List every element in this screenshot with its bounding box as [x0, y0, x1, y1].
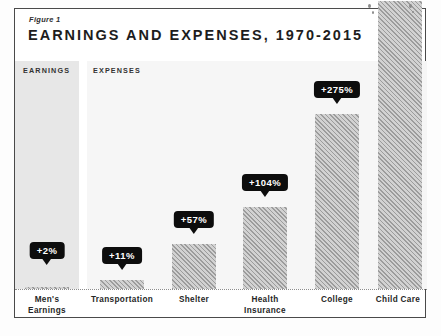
bar-group-college: +275% [304, 9, 370, 289]
category-label-line1: Child Care [368, 294, 428, 305]
category-label-line2: Insurance [230, 305, 300, 316]
category-label-line1: Transportation [87, 294, 157, 305]
bar-group-child-care [373, 9, 427, 289]
category-label-college: College [304, 294, 370, 305]
category-label-health-insurance: Health Insurance [230, 294, 300, 316]
bar-health-insurance [243, 207, 287, 289]
scan-speckle-icon [368, 4, 371, 8]
bar-group-mens-earnings: +2% [15, 9, 79, 289]
category-label-shelter: Shelter [161, 294, 227, 305]
category-label-line1: Men's [15, 294, 79, 305]
axis-baseline [15, 289, 427, 290]
bar-transportation [100, 280, 144, 289]
category-label-line1: Shelter [161, 294, 227, 305]
bar-callout-mens-earnings: +2% [30, 242, 65, 260]
bar-group-health-insurance: +104% [230, 9, 300, 289]
bar-child-care [378, 1, 422, 289]
category-label-mens-earnings: Men's Earnings [15, 294, 79, 316]
bar-group-shelter: +57% [161, 9, 227, 289]
figure-container: Figure 1 EARNINGS AND EXPENSES, 1970-201… [14, 8, 426, 318]
bar-college [315, 114, 359, 289]
category-label-child-care: Child Care [368, 294, 428, 305]
bar-callout-health-insurance: +104% [242, 174, 288, 192]
bar-shelter [172, 244, 216, 289]
category-label-line1: College [304, 294, 370, 305]
bar-group-transportation: +11% [87, 9, 157, 289]
plot-area: +2% +11% +57% +104% +275% [15, 9, 427, 289]
category-label-transportation: Transportation [87, 294, 157, 305]
category-label-line1: Health [230, 294, 300, 305]
scan-speckle-icon [409, 4, 412, 8]
category-label-line2: Earnings [15, 305, 79, 316]
bar-callout-transportation: +11% [102, 247, 142, 265]
scan-speckle-icon [372, 11, 374, 14]
bar-callout-shelter: +57% [174, 211, 214, 229]
scan-speckle-icon [412, 11, 414, 13]
bar-callout-college: +275% [314, 81, 360, 99]
